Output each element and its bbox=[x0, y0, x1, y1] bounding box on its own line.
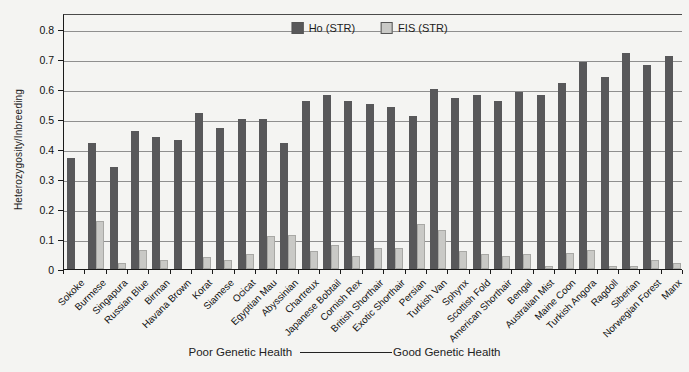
bar-fis-norwegian-forest bbox=[651, 260, 659, 269]
bar-group bbox=[171, 13, 192, 269]
bar-ho-ragdoll bbox=[601, 77, 609, 269]
bar-group bbox=[149, 13, 170, 269]
bar-group bbox=[128, 13, 149, 269]
bar-ho-american-shorthair bbox=[494, 101, 502, 269]
x-axis-tick bbox=[319, 270, 320, 274]
bar-fis-burmese bbox=[96, 221, 104, 269]
x-axis-tick bbox=[554, 270, 555, 274]
bar-fis-maine-coon bbox=[566, 253, 574, 270]
bar-fis-exotic-shorthair bbox=[395, 248, 403, 269]
bar-ho-korat bbox=[195, 113, 203, 269]
legend-item-fis: FIS (STR) bbox=[381, 22, 448, 34]
bar-ho-turkish-angora bbox=[579, 62, 587, 269]
bar-fis-bengal bbox=[523, 254, 531, 269]
x-axis-tick bbox=[106, 270, 107, 274]
x-axis-tick bbox=[63, 270, 64, 274]
bar-fis-sphynx bbox=[459, 251, 467, 269]
x-axis-tick bbox=[234, 270, 235, 274]
bar-ho-exotic-shorthair bbox=[387, 107, 395, 269]
bar-group bbox=[213, 13, 234, 269]
bar-fis-singapura bbox=[118, 263, 126, 269]
y-tick-label: 0.6 bbox=[20, 84, 54, 96]
bar-fis-egyptian-mau bbox=[267, 236, 275, 269]
x-axis-tick bbox=[212, 270, 213, 274]
legend-label-ho: Ho (STR) bbox=[309, 22, 355, 34]
x-axis-tick bbox=[127, 270, 128, 274]
bar-fis-american-shorthair bbox=[502, 256, 510, 270]
y-tick-label: 0.3 bbox=[20, 174, 54, 186]
x-axis-tick bbox=[170, 270, 171, 274]
bar-ho-persian bbox=[409, 116, 417, 269]
y-axis-tick bbox=[58, 30, 63, 31]
bar-group bbox=[491, 13, 512, 269]
bar-fis-manx bbox=[673, 263, 681, 269]
x-axis-tick bbox=[191, 270, 192, 274]
x-axis-tick bbox=[84, 270, 85, 274]
y-tick-label: 0.4 bbox=[20, 144, 54, 156]
x-axis-tick bbox=[447, 270, 448, 274]
x-axis-tick bbox=[597, 270, 598, 274]
bar-fis-chartreux bbox=[310, 251, 318, 269]
bar-ho-birman bbox=[152, 137, 160, 269]
bar-ho-cornish-rex bbox=[344, 101, 352, 269]
bar-group bbox=[107, 13, 128, 269]
bar-group bbox=[427, 13, 448, 269]
x-axis-tick bbox=[276, 270, 277, 274]
bar-fis-siamese bbox=[224, 260, 232, 269]
x-axis-tick bbox=[426, 270, 427, 274]
y-tick-label: 0.1 bbox=[20, 234, 54, 246]
legend-label-fis: FIS (STR) bbox=[398, 22, 448, 34]
x-axis-tick bbox=[511, 270, 512, 274]
x-axis-tick bbox=[682, 270, 683, 274]
bar-group bbox=[555, 13, 576, 269]
caption-good: Good Genetic Health bbox=[393, 346, 500, 358]
bar-group bbox=[406, 13, 427, 269]
bar-fis-siberian bbox=[630, 266, 638, 269]
y-tick-label: 0 bbox=[20, 264, 54, 276]
x-axis-tick bbox=[362, 270, 363, 274]
bar-ho-manx bbox=[665, 56, 673, 269]
x-axis-tick bbox=[639, 270, 640, 274]
bar-fis-persian bbox=[417, 224, 425, 269]
bar-group bbox=[299, 13, 320, 269]
x-axis-tick bbox=[575, 270, 576, 274]
y-axis-tick bbox=[58, 150, 63, 151]
y-axis-tick bbox=[58, 210, 63, 211]
bar-ho-australian-mist bbox=[537, 95, 545, 269]
bar-ho-bengal bbox=[515, 92, 523, 269]
bar-ho-siamese bbox=[216, 128, 224, 269]
y-tick-label: 0.8 bbox=[20, 24, 54, 36]
y-tick-label: 0.7 bbox=[20, 54, 54, 66]
bar-fis-british-shorthair bbox=[374, 248, 382, 269]
caption-poor: Poor Genetic Health bbox=[189, 346, 293, 358]
bar-group bbox=[576, 13, 597, 269]
x-axis-tick bbox=[340, 270, 341, 274]
bar-ho-ocicat bbox=[238, 119, 246, 269]
chart-figure: Heterozygosity/Inbreeding Ho (STR) FIS (… bbox=[0, 0, 689, 372]
x-axis-tick bbox=[661, 270, 662, 274]
bar-group bbox=[277, 13, 298, 269]
legend: Ho (STR) FIS (STR) bbox=[286, 22, 454, 34]
y-axis-tick bbox=[58, 120, 63, 121]
y-axis-tick bbox=[58, 60, 63, 61]
y-axis-tick bbox=[58, 240, 63, 241]
legend-item-ho: Ho (STR) bbox=[292, 22, 355, 34]
bar-ho-maine-coon bbox=[558, 83, 566, 269]
bar-group bbox=[384, 13, 405, 269]
bar-ho-singapura bbox=[110, 167, 118, 269]
legend-swatch-fis-icon bbox=[381, 22, 393, 34]
bar-group bbox=[256, 13, 277, 269]
bar-ho-sphynx bbox=[451, 98, 459, 269]
bar-ho-turkish-van bbox=[430, 89, 438, 269]
bar-fis-russian-blue bbox=[139, 250, 147, 270]
x-axis-tick bbox=[148, 270, 149, 274]
bar-fis-korat bbox=[203, 257, 211, 269]
y-axis-tick bbox=[58, 90, 63, 91]
bar-ho-sokoke bbox=[67, 158, 75, 269]
x-axis-tick bbox=[533, 270, 534, 274]
x-axis-tick bbox=[618, 270, 619, 274]
bar-ho-norwegian-forest bbox=[643, 65, 651, 269]
bar-fis-turkish-angora bbox=[587, 250, 595, 270]
bar-ho-chartreux bbox=[302, 101, 310, 269]
bar-fis-turkish-van bbox=[438, 230, 446, 269]
